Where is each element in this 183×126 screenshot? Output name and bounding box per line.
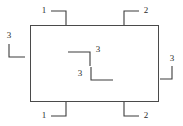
leader-line-bottom-right: [124, 102, 139, 116]
leader-line-right-side: [160, 66, 172, 79]
callout-top-right[interactable]: 2: [124, 5, 148, 25]
callout-label-interior-lower: 3: [78, 68, 83, 78]
leader-line-interior-upper: [68, 52, 90, 66]
callout-label-top-right: 2: [144, 5, 149, 15]
leader-line-top-left: [51, 11, 66, 25]
callout-right-side[interactable]: 3: [160, 53, 175, 79]
callout-label-left-side: 3: [7, 30, 12, 40]
leader-line-top-right: [124, 11, 139, 25]
callout-label-bottom-right: 2: [144, 110, 149, 120]
callout-bottom-right[interactable]: 2: [124, 102, 148, 120]
callout-label-interior-upper: 3: [96, 44, 101, 54]
callout-interior-lower[interactable]: 3: [78, 67, 113, 80]
callout-interior-upper[interactable]: 3: [68, 44, 101, 66]
callout-left-side[interactable]: 3: [7, 30, 25, 57]
callout-label-right-side: 3: [170, 53, 175, 63]
part-outline-rectangle: [31, 26, 159, 102]
leader-line-interior-lower: [91, 67, 113, 80]
diagram-svg: 1 2 3 3 3 3 1 2: [0, 0, 183, 126]
callout-label-top-left: 1: [42, 5, 47, 15]
callout-top-left[interactable]: 1: [42, 5, 66, 25]
callout-bottom-left[interactable]: 1: [42, 102, 66, 120]
callout-label-bottom-left: 1: [42, 110, 47, 120]
leader-line-bottom-left: [51, 102, 66, 116]
leader-line-left-side: [9, 44, 25, 57]
technical-drawing-canvas: 1 2 3 3 3 3 1 2: [0, 0, 183, 126]
